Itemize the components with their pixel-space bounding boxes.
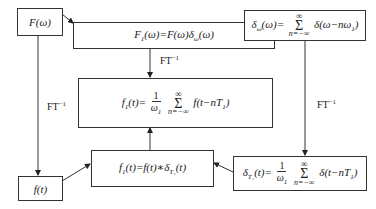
node-f1-sum: f1(t)= 1ω1 ∞Σn=−∞ f(t−nT1)	[78, 78, 273, 128]
fraction: 1ω1	[151, 90, 162, 117]
node-delta-omega-formula: δω(ω)= ∞Σn=−∞ δ(ω−nω1)	[252, 13, 359, 38]
node-delta-omega: δω(ω)= ∞Σn=−∞ δ(ω−nω1)	[244, 10, 366, 41]
edge-label-right-inverse-ft: FT−1	[317, 98, 336, 110]
summation-symbol: ∞Σn=−∞	[294, 161, 315, 186]
node-F-omega: F(ω)	[17, 8, 63, 36]
edge-label-center-inverse-ft: FT−1	[160, 54, 179, 66]
node-delta-T1-formula: δT₁(t)= 1ω1 ∞Σn=−∞ δ(t−nT1)	[243, 160, 358, 187]
summation-symbol: ∞Σn=−∞	[289, 13, 310, 38]
node-f1-sum-formula: f1(t)= 1ω1 ∞Σn=−∞ f(t−nT1)	[122, 90, 230, 117]
node-f1-conv-formula: f1(t)=f(t)∗δT₁(t)	[119, 161, 186, 176]
node-f1-conv: f1(t)=f(t)∗δT₁(t)	[91, 150, 214, 187]
summation-symbol: ∞Σn=−∞	[168, 91, 189, 116]
node-f-t: f(t)	[18, 176, 63, 201]
node-delta-T1: δT₁(t)= 1ω1 ∞Σn=−∞ δ(t−nT1)	[233, 156, 367, 191]
node-f-t-label: f(t)	[34, 183, 47, 195]
edge-label-left-inverse-ft: FT−1	[47, 100, 66, 112]
node-F1-omega-formula: F1(ω)=F(ω)δω(ω)	[134, 28, 214, 43]
fraction: 1ω1	[277, 160, 288, 187]
node-F-omega-label: F(ω)	[29, 16, 51, 28]
